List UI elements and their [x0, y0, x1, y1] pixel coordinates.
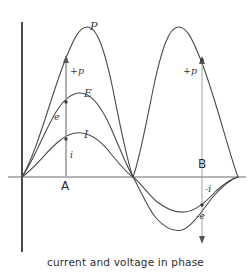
waveform-plot — [0, 0, 251, 274]
ordinate-a-current-point — [64, 137, 67, 140]
ordinate-a-arrowhead-top — [63, 55, 69, 63]
ordinate-b-power-point — [200, 58, 203, 61]
power-positive-label-right: +p — [183, 66, 197, 76]
figure-caption: current and voltage in phase — [0, 256, 251, 268]
power-positive-label-left: +p — [70, 66, 84, 76]
point-b-label: B — [198, 158, 206, 170]
waveform-figure: P E I +p e i +p -i -e A B current and vo… — [0, 0, 251, 274]
ordinate-b-arrowhead-bottom — [199, 236, 205, 244]
ordinate-b-current-point — [200, 203, 203, 206]
power-curve-label: P — [90, 21, 97, 32]
current-curve-label: I — [84, 129, 88, 140]
power-curve — [22, 27, 238, 177]
voltage-instant-label: e — [54, 112, 60, 122]
current-instant-label: i — [70, 150, 73, 160]
voltage-negative-label: -e — [196, 211, 205, 221]
point-a-label: A — [61, 180, 69, 192]
voltage-curve-label: E — [84, 88, 92, 99]
current-negative-label: -i — [205, 184, 211, 194]
ordinate-a-voltage-point — [64, 100, 67, 103]
